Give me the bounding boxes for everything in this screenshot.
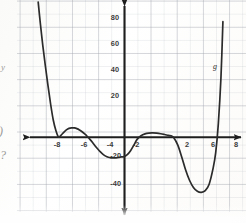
graph-svg: -8 -6 -4 -2 2 6 8 80 60 40 20 -20 -40 g: [0, 0, 246, 223]
scan-bottom-fade: [0, 205, 246, 223]
scanned-graph-image: y ) ? -8 -6 -4 -2 2 6 8 80 60 40 20 -20: [0, 0, 246, 223]
y-tick-80: 80: [111, 13, 119, 22]
y-axis: 80 60 40 20 -20 -40: [110, 6, 124, 215]
x-tick--6: -6: [81, 140, 88, 149]
x-tick-2: 2: [185, 140, 189, 149]
x-tick--8: -8: [54, 140, 61, 149]
function-label-g: g: [213, 62, 217, 71]
x-tick-6: 6: [211, 140, 215, 149]
y-tick-20: 20: [111, 91, 119, 100]
x-tick-8: 8: [234, 140, 238, 149]
y-tick-40: 40: [111, 65, 119, 74]
y-tick-60: 60: [111, 39, 119, 48]
polynomial-curve-g: [38, 2, 223, 192]
x-tick--4: -4: [107, 140, 114, 149]
y-tick--40: -40: [110, 179, 121, 188]
